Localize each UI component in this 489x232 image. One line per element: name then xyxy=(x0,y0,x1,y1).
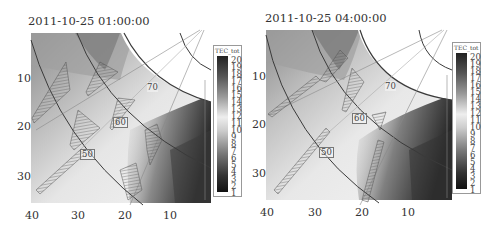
colorbar: TEC_tot 20 19 18 17 16 15 14 13 12 11 10… xyxy=(213,45,242,197)
y-tick-30: 30 xyxy=(252,167,266,180)
x-tick-20: 20 xyxy=(118,209,132,222)
x-tick-20: 20 xyxy=(355,206,369,219)
x-tick-10: 10 xyxy=(163,209,177,222)
tec-map-panel-right: 2011-10-25 04:00:00 xyxy=(244,0,489,232)
x-tick-40: 40 xyxy=(25,209,39,222)
colorbar-tick: 1 xyxy=(470,186,475,194)
x-tick-30: 30 xyxy=(71,209,85,222)
colorbar-label: TEC_tot xyxy=(215,47,239,54)
colorbar-label: TEC_tot xyxy=(454,44,478,51)
x-tick-30: 30 xyxy=(308,206,322,219)
contour-label-70: 70 xyxy=(385,81,396,91)
x-tick-40: 40 xyxy=(260,206,274,219)
contour-label-60: 60 xyxy=(352,113,367,124)
tec-map-panel-left: 2011-10-25 01:00:00 xyxy=(0,0,245,232)
contour-label-50: 50 xyxy=(319,147,334,158)
y-tick-30: 30 xyxy=(17,170,31,183)
y-tick-10: 10 xyxy=(252,70,266,83)
colorbar-gradient xyxy=(217,56,228,192)
contour-label-60: 60 xyxy=(113,117,128,128)
y-tick-20: 20 xyxy=(17,120,31,133)
colorbar-tick: 1 xyxy=(231,189,236,197)
colorbar-gradient xyxy=(456,53,467,189)
x-tick-10: 10 xyxy=(401,206,415,219)
y-tick-20: 20 xyxy=(252,118,266,131)
contour-label-50: 50 xyxy=(80,149,95,160)
contour-label-70: 70 xyxy=(147,82,158,92)
y-tick-10: 10 xyxy=(17,72,31,85)
colorbar: TEC_tot 20 19 18 17 16 15 14 13 12 11 10… xyxy=(452,42,481,194)
tec-map-plot xyxy=(0,0,245,232)
